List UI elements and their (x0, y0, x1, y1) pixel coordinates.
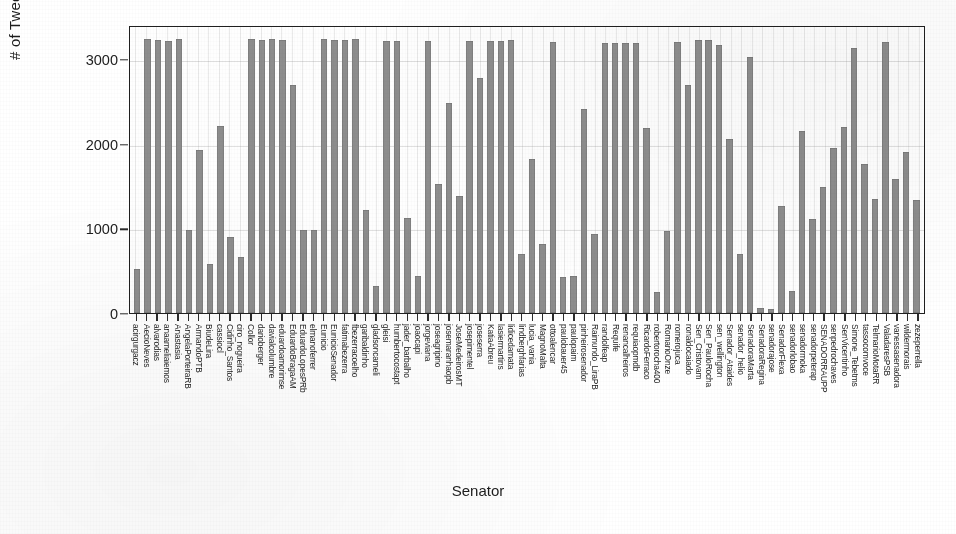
x-axis-tick-mark (344, 314, 345, 321)
x-axis-label-slot: lucia_vania (527, 324, 537, 474)
x-axis-tick (663, 314, 673, 323)
x-axis-tick (913, 314, 923, 323)
x-axis-title: Senator (0, 482, 956, 499)
x-axis-tick (360, 314, 370, 323)
x-axis-tick (287, 314, 297, 323)
x-axis-tick-label: SenadorFlexa (778, 324, 786, 374)
x-axis-tick-mark (365, 314, 366, 321)
x-axis-tick-mark (302, 314, 303, 321)
bar-slot (132, 27, 142, 313)
x-axis-label-slot: anaameliaiemos (162, 324, 172, 474)
x-axis-label-slot: Cidinho_Santos (225, 324, 235, 474)
x-axis-label-slot: EduardoLopesPRb (298, 324, 308, 474)
bar (539, 244, 545, 313)
x-axis-tick-mark (740, 314, 741, 321)
bar-slot (142, 27, 152, 313)
y-axis-ticks: 0100020003000 (0, 0, 130, 534)
x-axis-label-slot: zezeperrella (913, 324, 923, 474)
y-axis-tick: 0 (0, 307, 130, 321)
x-axis-tick-label: gladsoncameli (372, 324, 380, 376)
x-axis-label-slot: joaocapi (412, 324, 422, 474)
x-axis-tick (840, 314, 850, 323)
x-axis-label-slot: tassocomvoce (861, 324, 871, 474)
x-axis-tick-label: elmanoferrer (309, 324, 317, 370)
plot-panel (129, 26, 925, 314)
x-axis-tick-mark (490, 314, 491, 321)
x-axis-tick-mark (719, 314, 720, 321)
x-axis-tick (548, 314, 558, 323)
x-axis-tick-mark (448, 314, 449, 321)
x-axis-tick (735, 314, 745, 323)
x-axis-tick-mark (813, 314, 814, 321)
bar-slot (693, 27, 703, 313)
x-axis-tick-label: alvarodias (153, 324, 161, 361)
bar (217, 126, 223, 313)
bar-slot (485, 27, 495, 313)
bar-slot (433, 27, 443, 313)
x-axis-tick (235, 314, 245, 323)
x-axis-label-slot: Anastasia (173, 324, 183, 474)
x-axis-tick-label: Eunicio (320, 324, 328, 350)
x-axis-label-slot: Simone_Tebetms (850, 324, 860, 474)
x-axis-tick (600, 314, 610, 323)
bar (685, 85, 691, 313)
bar (789, 291, 795, 313)
x-axis-tick (881, 314, 891, 323)
x-axis-tick-label: josepimentel (466, 324, 474, 369)
x-axis-tick-mark (532, 314, 533, 321)
y-axis-tick-label: 1000 (86, 221, 118, 237)
x-axis-tick-label: RomarioOnze (664, 324, 672, 374)
x-axis-tick-mark (698, 314, 699, 321)
bar-slot (319, 27, 329, 313)
bar (269, 39, 275, 313)
x-axis-tick (308, 314, 318, 323)
x-axis-tick-mark (396, 314, 397, 321)
bar (342, 40, 348, 313)
x-axis-label-slot: joseagripino (433, 324, 443, 474)
bar (778, 206, 784, 313)
x-axis-tick (569, 314, 579, 323)
x-axis-tick-mark (188, 314, 189, 321)
x-axis-label-slot: AngelaPorteiraRB (183, 324, 193, 474)
x-axis-label-slot: paulopaim (569, 324, 579, 474)
x-axis-tick-label: Requife (611, 324, 619, 352)
bar-slot (361, 27, 371, 313)
x-axis-tick-mark (615, 314, 616, 321)
x-axis-tick-mark (792, 314, 793, 321)
x-axis-label-slot: garibaldinho (360, 324, 370, 474)
x-axis-label-slot: sen_wellington (715, 324, 725, 474)
x-axis-tick (392, 314, 402, 323)
bar (425, 41, 431, 313)
bar (550, 42, 556, 313)
x-axis-tick-mark (876, 314, 877, 321)
bar (446, 103, 452, 313)
bar (674, 42, 680, 313)
x-axis-label-slot: robertorocha400 (652, 324, 662, 474)
bar-slot (880, 27, 890, 313)
bar-slot (184, 27, 194, 313)
x-axis-label-slot: gladsoncameli (371, 324, 381, 474)
x-axis-tick-mark (823, 314, 824, 321)
x-axis-tick-label: robertorocha400 (653, 324, 661, 383)
x-axis-tick-label: AecioNeves (142, 324, 150, 367)
y-axis-tick-mark (120, 59, 128, 60)
x-axis-tick-label: EunicioSenador (330, 324, 338, 381)
x-axis-tick-label: Anastasia (174, 324, 182, 359)
bar (757, 308, 763, 313)
x-axis-tick (725, 314, 735, 323)
x-axis-tick (829, 314, 839, 323)
x-axis-tick-mark (261, 314, 262, 321)
y-axis-tick: 3000 (0, 53, 130, 67)
bar (872, 199, 878, 313)
x-axis-tick-mark (584, 314, 585, 321)
x-axis-tick-mark (688, 314, 689, 321)
x-axis-tick (350, 314, 360, 323)
x-axis-tick-mark (334, 314, 335, 321)
bar (695, 40, 701, 313)
bar (841, 127, 847, 313)
x-axis-tick-label: requiaopmdb (632, 324, 640, 371)
x-axis-tick-label: Cidinho_Santos (226, 324, 234, 381)
x-axis-tick-label: lindberghfarias (518, 324, 526, 377)
x-axis-tick-mark (354, 314, 355, 321)
x-axis-label-slot: Collor (246, 324, 256, 474)
